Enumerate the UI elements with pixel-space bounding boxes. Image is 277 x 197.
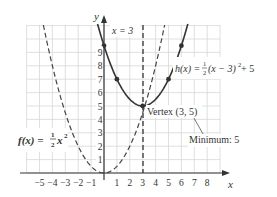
h-equation-label: h(x) = 1 2 (x − 3) 2 + 5 (175, 60, 254, 76)
svg-text:x: x (56, 134, 63, 146)
y-tick-label: 5 (98, 102, 103, 112)
vertex-label: Vertex (3, 5) (147, 106, 197, 118)
x-axis-arrow-icon (222, 170, 230, 176)
x-tick-label: −4 (47, 178, 57, 188)
svg-text:2: 2 (203, 69, 206, 76)
x-tick-label: −3 (60, 178, 70, 188)
svg-text:1: 1 (51, 131, 55, 139)
y-tick-label: 6 (98, 88, 103, 98)
x-tick-label: 5 (166, 178, 171, 188)
y-tick-label: 4 (98, 115, 103, 125)
x-tick-label: 7 (192, 178, 197, 188)
svg-text:(x − 3): (x − 3) (208, 63, 237, 75)
y-tick-label: 9 (98, 48, 103, 58)
y-tick-label: 2 (98, 142, 103, 152)
x-tick-label: 6 (179, 178, 184, 188)
svg-text:1: 1 (203, 60, 206, 67)
marked-point (179, 43, 184, 48)
svg-text:f(x) =: f(x) = (18, 134, 44, 147)
svg-text:h(x) =: h(x) = (175, 63, 200, 75)
x-tick-label: 1 (115, 178, 120, 188)
y-tick-labels: 123456789 (96, 46, 103, 165)
minimum-label: Minimum: 5 (189, 134, 239, 145)
x-tick-labels: −5−4−3−2−112345678 (34, 178, 209, 188)
marked-point (166, 77, 171, 82)
y-axis-label: y (93, 10, 99, 22)
x-tick-label: −1 (86, 178, 96, 188)
y-axis-arrow-icon (101, 15, 107, 23)
marked-point (115, 77, 120, 82)
parabola-chart: −5−4−3−2−112345678 123456789 x y x = 3 V… (0, 0, 277, 197)
x-tick-label: 2 (127, 178, 132, 188)
x-tick-label: 8 (205, 178, 210, 188)
x-tick-label: −2 (73, 178, 83, 188)
x-tick-label: 4 (153, 178, 158, 188)
marked-point (140, 104, 145, 109)
y-tick-label: 8 (98, 61, 103, 71)
minimum-leader-line (194, 118, 203, 134)
x-tick-label: −5 (34, 178, 44, 188)
y-tick-label: 7 (98, 75, 103, 85)
svg-text:2: 2 (64, 132, 68, 140)
x-axis-label: x (227, 178, 233, 190)
svg-text:+ 5: + 5 (241, 63, 254, 74)
y-tick-label: 1 (98, 155, 103, 165)
axis-of-symmetry-label: x = 3 (111, 25, 133, 36)
y-tick-label: 3 (98, 128, 103, 138)
svg-text:2: 2 (51, 141, 55, 149)
x-tick-label: 3 (140, 178, 145, 188)
